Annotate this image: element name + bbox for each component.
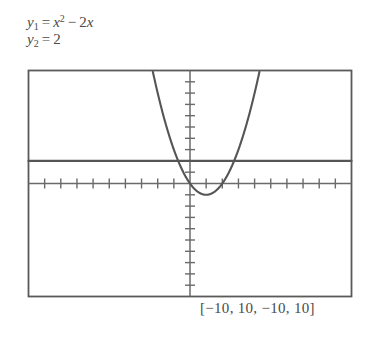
equation-y1-term1-var: x	[53, 14, 60, 30]
equation-y1: y1=x2−2x	[27, 9, 93, 29]
equation-y2-equals: =	[39, 31, 53, 47]
equation-list: y1=x2−2x y2=2	[27, 9, 93, 49]
graph-viewport	[0, 0, 378, 340]
curve-y1-parabola	[153, 72, 260, 195]
equation-y1-lhs-var: y	[27, 14, 34, 30]
graphing-calculator-figure: y1=x2−2x y2=2 [−10, 10, −10, 10]	[0, 0, 378, 340]
equation-y2-lhs-var: y	[27, 31, 34, 47]
equation-y1-term2-var: x	[87, 14, 94, 30]
equation-y1-term2-coefficient: 2	[79, 14, 87, 30]
equation-y2-lhs-subscript: 2	[34, 38, 39, 49]
equation-y2-rhs: 2	[53, 31, 61, 47]
equation-y2: y2=2	[27, 29, 93, 49]
equation-y1-equals: =	[39, 14, 53, 30]
window-range-label: [−10, 10, −10, 10]	[200, 300, 315, 317]
equation-y1-operator: −	[65, 14, 79, 30]
